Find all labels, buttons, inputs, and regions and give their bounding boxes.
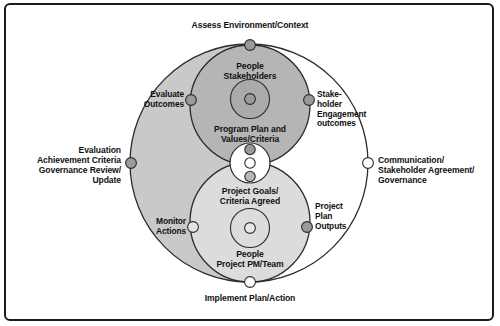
node-monitor-actions bbox=[188, 222, 199, 233]
people-project-team-label: People Project PM/Team bbox=[185, 249, 315, 269]
node-evaluate-outcomes bbox=[186, 95, 197, 106]
node-communication bbox=[363, 158, 374, 169]
monitor-actions-label: Monitor Actions bbox=[128, 217, 186, 237]
project-plan-outputs-label: Project Plan Outputs bbox=[315, 202, 377, 231]
node-implement-plan bbox=[245, 277, 256, 288]
node-evaluation-governance bbox=[126, 158, 137, 169]
node-core-lower bbox=[245, 171, 255, 181]
evaluate-outcomes-label: Evaluate Outcomes bbox=[124, 90, 184, 110]
people-stakeholders-label: People Stakeholders bbox=[190, 61, 310, 81]
node-stakeholder-engagement bbox=[304, 95, 315, 106]
node-core-top bbox=[245, 144, 255, 154]
diagram-page: Assess Environment/Context Communication… bbox=[0, 0, 500, 326]
node-hub-project-team bbox=[245, 223, 256, 234]
stakeholder-engagement-label: Stake- holder Engagement outcomes bbox=[317, 90, 389, 129]
node-core-middle bbox=[245, 158, 255, 168]
node-hub-stakeholders bbox=[245, 94, 256, 105]
project-goals-criteria-label: Project Goals/ Criteria Agreed bbox=[187, 186, 313, 206]
node-assess-environment bbox=[245, 40, 256, 51]
program-plan-values-label: Program Plan and Values/Criteria bbox=[185, 124, 315, 144]
assess-environment-label: Assess Environment/Context bbox=[160, 20, 340, 30]
implement-plan-label: Implement Plan/Action bbox=[160, 293, 340, 303]
communication-governance-label: Communication/ Stakeholder Agreement/ Go… bbox=[378, 155, 498, 185]
node-project-plan-outputs bbox=[302, 222, 313, 233]
evaluation-governance-label: Evaluation Achievement Criteria Governan… bbox=[8, 145, 121, 185]
